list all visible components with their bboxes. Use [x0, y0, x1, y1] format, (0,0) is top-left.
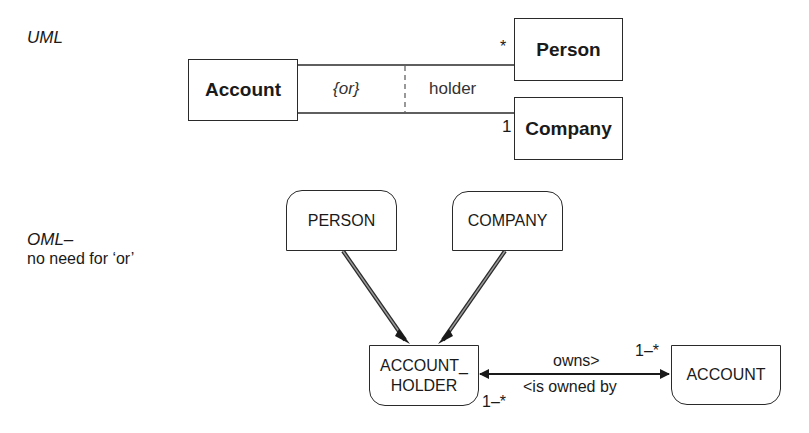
- uml-holder-role: holder: [429, 79, 476, 99]
- oml-heading: OML–: [27, 230, 73, 250]
- oml-entity-account: ACCOUNT: [671, 345, 781, 405]
- uml-or-constraint: {or}: [333, 79, 359, 99]
- oml-entity-company-label: COMPANY: [468, 211, 548, 231]
- oml-entity-company: COMPANY: [452, 191, 563, 251]
- company-to-holder-arrow: [438, 251, 505, 344]
- oml-entity-account-holder-label-line2: HOLDER: [391, 376, 458, 396]
- uml-class-person: Person: [514, 18, 623, 81]
- uml-multiplicity-company: 1: [502, 117, 511, 137]
- uml-class-account: Account: [188, 59, 298, 121]
- uml-heading: UML: [27, 28, 63, 48]
- relationship-forward-label: owns>: [553, 352, 600, 370]
- uml-class-company: Company: [514, 97, 623, 160]
- oml-entity-account-label: ACCOUNT: [686, 365, 765, 385]
- uml-class-account-label: Account: [205, 79, 281, 101]
- uml-multiplicity-person: *: [500, 38, 506, 56]
- oml-subheading: no need for ‘or’: [27, 250, 134, 268]
- oml-entity-account-holder-label-line1: ACCOUNT_: [380, 356, 468, 376]
- multiplicity-account: 1–*: [635, 342, 659, 360]
- uml-class-person-label: Person: [536, 39, 600, 61]
- oml-entity-account-holder: ACCOUNT_ HOLDER: [369, 345, 479, 406]
- multiplicity-holder: 1–*: [482, 393, 506, 411]
- relationship-reverse-label: <is owned by: [523, 378, 617, 396]
- person-to-holder-arrow: [343, 251, 410, 344]
- oml-entity-person-label: PERSON: [308, 211, 376, 231]
- oml-entity-person: PERSON: [286, 190, 397, 251]
- uml-class-company-label: Company: [525, 118, 612, 140]
